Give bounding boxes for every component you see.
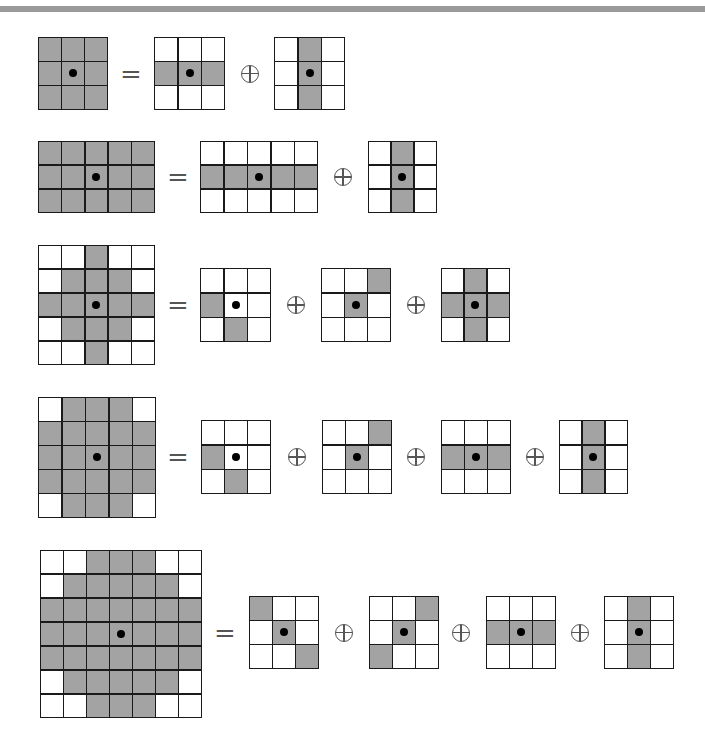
- empty-cell: [109, 246, 131, 268]
- filled-cell: [63, 470, 85, 493]
- empty-cell: [442, 421, 464, 444]
- filled-cell: [133, 422, 155, 445]
- filled-cell: [110, 470, 132, 493]
- filled-cell: [583, 421, 604, 444]
- empty-cell: [606, 446, 627, 469]
- filled-cell: [155, 62, 177, 85]
- empty-cell: [605, 597, 627, 620]
- empty-cell: [202, 38, 224, 61]
- filled-cell: [273, 621, 295, 644]
- filled-cell: [87, 575, 109, 597]
- empty-cell: [248, 421, 270, 444]
- filled-cell: [156, 671, 178, 693]
- filled-cell: [110, 623, 132, 645]
- filled-cell: [62, 38, 84, 61]
- filled-cell: [179, 62, 201, 85]
- empty-cell: [155, 38, 177, 61]
- filled-cell: [345, 294, 367, 317]
- empty-cell: [369, 190, 390, 212]
- empty-cell: [275, 62, 297, 85]
- filled-cell: [86, 422, 108, 445]
- filled-cell: [133, 623, 155, 645]
- empty-cell: [465, 470, 487, 493]
- filled-cell: [86, 318, 108, 340]
- filled-cell: [86, 342, 108, 364]
- filled-cell: [299, 62, 321, 85]
- empty-cell: [179, 38, 201, 61]
- empty-cell: [41, 551, 63, 573]
- filled-cell: [296, 645, 318, 668]
- empty-cell: [156, 695, 178, 717]
- oplus-icon: [452, 624, 470, 642]
- filled-cell: [583, 446, 604, 469]
- empty-cell: [323, 446, 345, 469]
- filled-cell: [133, 470, 155, 493]
- origin-dot-icon: [353, 453, 361, 461]
- filled-cell: [133, 551, 155, 573]
- filled-cell: [110, 494, 132, 517]
- filled-cell: [109, 166, 131, 188]
- filled-cell: [272, 166, 294, 188]
- origin-dot-icon: [93, 453, 101, 461]
- filled-cell: [86, 494, 108, 517]
- empty-cell: [488, 470, 510, 493]
- empty-cell: [248, 318, 270, 341]
- empty-cell: [225, 269, 247, 292]
- origin-dot-icon: [398, 173, 406, 181]
- filled-cell: [465, 446, 487, 469]
- filled-cell: [628, 597, 650, 620]
- filled-cell: [85, 38, 107, 61]
- filled-cell: [109, 142, 131, 164]
- structuring-element-5: [40, 550, 202, 718]
- empty-cell: [346, 421, 368, 444]
- empty-cell: [346, 470, 368, 493]
- empty-cell: [275, 86, 297, 109]
- oplus-icon: [241, 65, 259, 83]
- filled-cell: [63, 446, 85, 469]
- empty-cell: [533, 645, 555, 668]
- empty-cell: [64, 551, 86, 573]
- empty-cell: [415, 190, 436, 212]
- filled-cell: [110, 551, 132, 573]
- empty-cell: [39, 398, 61, 421]
- oplus-icon: [571, 624, 589, 642]
- origin-dot-icon: [400, 628, 408, 636]
- empty-cell: [322, 38, 344, 61]
- filled-cell: [110, 695, 132, 717]
- filled-cell: [179, 623, 201, 645]
- origin-dot-icon: [280, 628, 288, 636]
- filled-cell: [295, 166, 317, 188]
- empty-cell: [179, 86, 201, 109]
- empty-cell: [202, 86, 224, 109]
- origin-dot-icon: [232, 453, 240, 461]
- filled-cell: [250, 597, 272, 620]
- filled-cell: [109, 318, 131, 340]
- filled-cell: [62, 166, 84, 188]
- oplus-icon: [526, 448, 544, 466]
- empty-cell: [225, 142, 247, 164]
- origin-dot-icon: [92, 301, 100, 309]
- empty-cell: [416, 645, 438, 668]
- filled-cell: [156, 623, 178, 645]
- filled-cell: [225, 166, 247, 188]
- empty-cell: [155, 86, 177, 109]
- filled-cell: [109, 294, 131, 316]
- oplus-icon: [334, 168, 352, 186]
- empty-cell: [132, 246, 154, 268]
- empty-cell: [225, 294, 247, 317]
- origin-dot-icon: [589, 453, 597, 461]
- empty-cell: [273, 597, 295, 620]
- filled-cell: [62, 270, 84, 292]
- filled-cell: [133, 575, 155, 597]
- filled-cell: [132, 190, 154, 212]
- filled-cell: [510, 621, 532, 644]
- empty-cell: [41, 575, 63, 597]
- filled-cell: [86, 246, 108, 268]
- empty-cell: [368, 294, 390, 317]
- origin-dot-icon: [186, 69, 194, 77]
- filled-cell: [64, 599, 86, 621]
- filled-cell: [248, 166, 270, 188]
- filled-cell: [64, 575, 86, 597]
- decomposition-term-4-4: [559, 420, 628, 494]
- empty-cell: [272, 190, 294, 212]
